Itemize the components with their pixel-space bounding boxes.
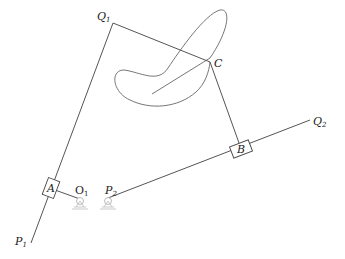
pivot-p2-icon <box>100 198 116 210</box>
label-p2: P2 <box>104 184 117 198</box>
label-q1: Q1 <box>97 10 111 24</box>
pivot-o1-icon <box>72 198 88 210</box>
mechanism-diagram: A B Q1 C Q2 O1 P2 P1 <box>0 0 345 259</box>
link-p2-q2 <box>108 120 310 198</box>
coupler-curve <box>115 10 227 106</box>
label-q2: Q2 <box>313 115 327 129</box>
label-o1: O1 <box>75 184 89 198</box>
link-c-b <box>210 62 239 143</box>
label-p1: P1 <box>14 235 27 249</box>
label-c: C <box>214 57 223 70</box>
link-q1-c <box>113 23 210 62</box>
link-p1-q1 <box>31 23 113 243</box>
label-b: B <box>236 143 245 156</box>
label-a: A <box>46 182 55 195</box>
